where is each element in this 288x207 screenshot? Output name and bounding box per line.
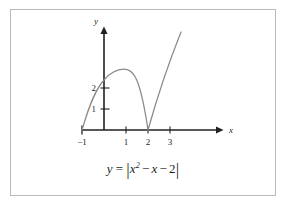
x-axis-arrowhead xyxy=(216,126,224,133)
equation-abs-close: | xyxy=(176,160,180,179)
function-curve xyxy=(82,16,177,130)
equation-lhs: y xyxy=(107,161,113,176)
equation-caption: y=|x2−x−2| xyxy=(10,158,276,178)
equation-operator-2: − xyxy=(158,161,170,176)
x-tick-label-3: 3 xyxy=(168,137,173,147)
y-tick-label-2: 2 xyxy=(92,83,97,93)
equation-abs-open: | xyxy=(126,160,130,179)
equation-term2: x xyxy=(152,161,158,176)
function-curve-branch xyxy=(148,32,181,130)
equation-equals: = xyxy=(113,161,127,176)
y-axis-label: y xyxy=(93,16,98,26)
y-axis-arrowhead xyxy=(100,27,107,35)
x-tick-label--1: −1 xyxy=(77,137,87,147)
figure-container: y x −1 1 2 3 1 2 y=|x2−x−2| xyxy=(0,0,288,207)
equation-term3: 2 xyxy=(169,161,176,176)
function-curve-arch xyxy=(82,69,148,130)
x-axis-label: x xyxy=(228,125,233,135)
equation-operator-1: − xyxy=(140,161,152,176)
x-tick-label-2: 2 xyxy=(146,137,151,147)
y-tick-label-1: 1 xyxy=(92,104,97,114)
x-tick-label-1: 1 xyxy=(124,137,129,147)
